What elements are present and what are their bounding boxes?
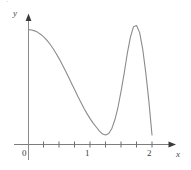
x-tick-label-0: 0 bbox=[22, 149, 27, 158]
y-axis bbox=[26, 14, 32, 161]
x-axis-arrowhead bbox=[169, 141, 177, 147]
x-axis-label: x bbox=[176, 150, 180, 159]
x-tick-label-1: 1 bbox=[85, 149, 90, 158]
figure-container: . y x 0 1 2 bbox=[0, 0, 191, 170]
x-tick-label-2: 2 bbox=[147, 149, 152, 158]
y-axis-label: y bbox=[13, 9, 17, 18]
function-graph-plot bbox=[0, 0, 191, 170]
y-axis-arrowhead bbox=[26, 14, 32, 22]
curve-line bbox=[29, 26, 153, 135]
